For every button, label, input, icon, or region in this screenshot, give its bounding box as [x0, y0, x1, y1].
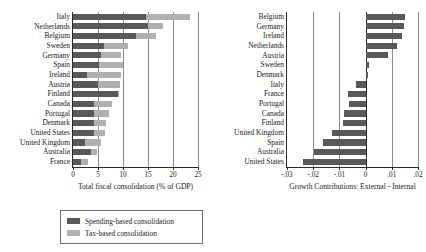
- chart-row: Belgium: [287, 12, 418, 22]
- bar: [303, 159, 366, 165]
- chart-row: France: [287, 90, 418, 100]
- category-label: Italy: [270, 81, 284, 89]
- bar-segment: [73, 23, 148, 29]
- bar-segment: [73, 130, 94, 136]
- x-axis-tick-label: -.01: [334, 171, 345, 180]
- bar-segment: [73, 120, 94, 126]
- chart-row: Austria: [287, 51, 418, 61]
- x-axis-tick: [418, 167, 419, 170]
- chart-row: Australia: [73, 148, 198, 158]
- x-axis-tick-label: 25: [194, 171, 201, 180]
- bar-segment: [73, 139, 85, 145]
- category-label: Canada: [262, 110, 284, 118]
- category-label: United Kingdom: [234, 129, 284, 137]
- x-axis-tick-label: -.02: [307, 171, 318, 180]
- category-label: Austria: [48, 81, 70, 89]
- category-label: Portugal: [45, 110, 70, 118]
- category-label: United States: [244, 158, 284, 166]
- bar-segment: [148, 23, 163, 29]
- category-label: Belgium: [259, 13, 284, 21]
- x-axis-tick-label: .01: [387, 171, 396, 180]
- x-axis-tick: [313, 167, 314, 170]
- bar: [348, 91, 366, 97]
- plot-area-fiscal-consolidation: ItalyNetherlandsBelgiumSwedenGermanySpai…: [72, 12, 198, 168]
- chart-row: Austria: [73, 80, 198, 90]
- bar-segment: [73, 43, 104, 49]
- bar-segment: [73, 62, 99, 68]
- chart-row: Italy: [287, 80, 418, 90]
- legend-label-tax: Tax-based consolidation: [85, 229, 157, 238]
- category-label: Spain: [53, 61, 70, 69]
- chart-row: United States: [73, 128, 198, 138]
- chart-row: Ireland: [73, 70, 198, 80]
- bar-segment: [73, 91, 118, 97]
- x-axis-tick-label: 0: [71, 171, 75, 180]
- chart-row: France: [73, 157, 198, 167]
- bar-segment: [73, 33, 136, 39]
- legend-label-spending: Spending-based consolidation: [85, 217, 174, 226]
- legend-swatch-spending-icon: [67, 218, 80, 224]
- bar-segment: [101, 52, 121, 58]
- category-label: Portugal: [259, 100, 284, 108]
- bar-segment: [81, 159, 88, 165]
- category-label: Germany: [43, 52, 71, 60]
- bar-segment: [73, 159, 81, 165]
- bar-segment: [73, 149, 91, 155]
- bar: [366, 43, 397, 49]
- chart-row: Germany: [73, 51, 198, 61]
- chart-row: Spain: [287, 138, 418, 148]
- chart-row: Netherlands: [287, 41, 418, 51]
- x-axis-tick-label: 15: [144, 171, 151, 180]
- bar-segment: [104, 43, 128, 49]
- chart-row: Portugal: [287, 99, 418, 109]
- x-axis-tick: [392, 167, 393, 170]
- bar-segment: [94, 110, 109, 116]
- bar: [366, 23, 404, 29]
- legend-item-spending: Spending-based consolidation: [67, 215, 196, 227]
- gridline: [418, 12, 419, 167]
- chart-row: Sweden: [73, 41, 198, 51]
- x-axis-tick-label: 5: [96, 171, 100, 180]
- figure-canvas: ItalyNetherlandsBelgiumSwedenGermanySpai…: [0, 0, 426, 252]
- chart-row: Portugal: [73, 109, 198, 119]
- x-axis-tick: [198, 167, 199, 170]
- chart-row: Ireland: [287, 31, 418, 41]
- category-label: United Kingdom: [20, 139, 70, 147]
- bar-segment: [73, 72, 87, 78]
- category-label: Spain: [267, 139, 284, 147]
- x-axis-tick-label: .02: [414, 171, 423, 180]
- category-label: Netherlands: [248, 42, 284, 50]
- bar: [344, 110, 366, 116]
- bar-segment: [98, 81, 120, 87]
- x-axis-tick: [366, 167, 367, 170]
- chart-row: United States: [287, 157, 418, 167]
- chart-row: Denmark: [287, 70, 418, 80]
- category-label: Belgium: [45, 32, 70, 40]
- chart-row: Finland: [73, 90, 198, 100]
- bar: [343, 120, 366, 126]
- bar-segment: [94, 101, 112, 107]
- bar: [366, 62, 369, 68]
- bar-segment: [73, 14, 146, 20]
- x-axis-tick: [287, 167, 288, 170]
- x-axis-tick: [123, 167, 124, 170]
- bar-segment: [91, 149, 97, 155]
- bar-segment: [73, 101, 94, 107]
- x-axis-tick: [339, 167, 340, 170]
- bar-segment: [85, 139, 102, 145]
- category-label: Canada: [48, 100, 70, 108]
- bar-segment: [87, 72, 122, 78]
- x-axis-tick: [173, 167, 174, 170]
- chart-row: United Kingdom: [287, 128, 418, 138]
- category-label: France: [50, 158, 70, 166]
- panel-growth-contributions: BelgiumGermanyIrelandNetherlandsAustriaS…: [213, 0, 426, 252]
- bar: [366, 52, 388, 58]
- bar-segment: [99, 62, 124, 68]
- bar: [349, 101, 366, 107]
- plot-area-growth-contributions: BelgiumGermanyIrelandNetherlandsAustriaS…: [286, 12, 418, 168]
- category-label: Australia: [43, 148, 70, 156]
- bar-segment: [94, 120, 106, 126]
- category-label: Sweden: [47, 42, 70, 50]
- category-label: Finland: [261, 119, 284, 127]
- bar-segment: [146, 14, 190, 20]
